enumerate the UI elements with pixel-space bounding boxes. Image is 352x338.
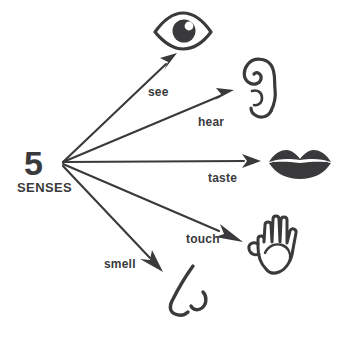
- arrow-see: see: [63, 53, 177, 162]
- nose-icon: [170, 266, 206, 315]
- lips-icon: [269, 150, 331, 179]
- ear-icon: [244, 59, 275, 117]
- arrow-hear-head: [215, 88, 234, 100]
- arrow-touch-line: [63, 164, 219, 231]
- edge-label-hear: hear: [198, 115, 224, 129]
- hub-label: 5 SENSES: [17, 144, 72, 195]
- arrow-smell: smell: [63, 166, 163, 272]
- arrow-taste: taste: [63, 154, 261, 185]
- senses-canvas: 5 SENSES see hear taste touch: [0, 0, 352, 338]
- hub-number: 5: [24, 144, 42, 182]
- arrow-taste-line: [63, 161, 244, 162]
- arrow-smell-head: [140, 250, 163, 272]
- eye-icon: [155, 13, 211, 49]
- hand-icon: [249, 216, 296, 273]
- arrow-hear: hear: [63, 88, 234, 162]
- edge-label-smell: smell: [104, 257, 136, 271]
- arrow-see-line: [63, 64, 166, 162]
- edge-label-see: see: [148, 85, 169, 99]
- edge-label-touch: touch: [186, 232, 220, 246]
- arrow-smell-line: [63, 166, 150, 258]
- edge-label-taste: taste: [208, 171, 237, 185]
- hub-word: SENSES: [17, 180, 72, 195]
- five-senses-diagram: 5 SENSES see hear taste touch: [0, 0, 352, 338]
- arrow-hear-line: [63, 96, 220, 162]
